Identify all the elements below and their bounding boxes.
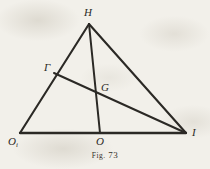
vertex-label-gamma: Γ: [44, 62, 50, 73]
vertex-label-H: H: [84, 7, 92, 18]
segment-side-H-I: [89, 24, 186, 133]
vertex-label-O: O: [96, 136, 104, 147]
vertex-label-G: G: [101, 82, 109, 93]
figure-caption-number: 73: [108, 150, 118, 160]
figure-page: H Γ G I Oi O Fig. 73: [0, 0, 210, 169]
vertex-label-I: I: [192, 127, 196, 138]
vertex-label-O-sub-i-subscript: i: [16, 141, 18, 149]
figure-caption: Fig. 73: [0, 150, 210, 160]
segment-cevian-Gamma-I: [54, 73, 186, 133]
segment-side-H-O1: [20, 24, 89, 133]
vertex-label-O-sub-i: Oi: [8, 136, 18, 149]
vertex-label-O-sub-i-base: O: [8, 135, 16, 147]
segment-cevian-H-O: [89, 24, 100, 133]
figure-caption-prefix: Fig.: [92, 151, 106, 160]
